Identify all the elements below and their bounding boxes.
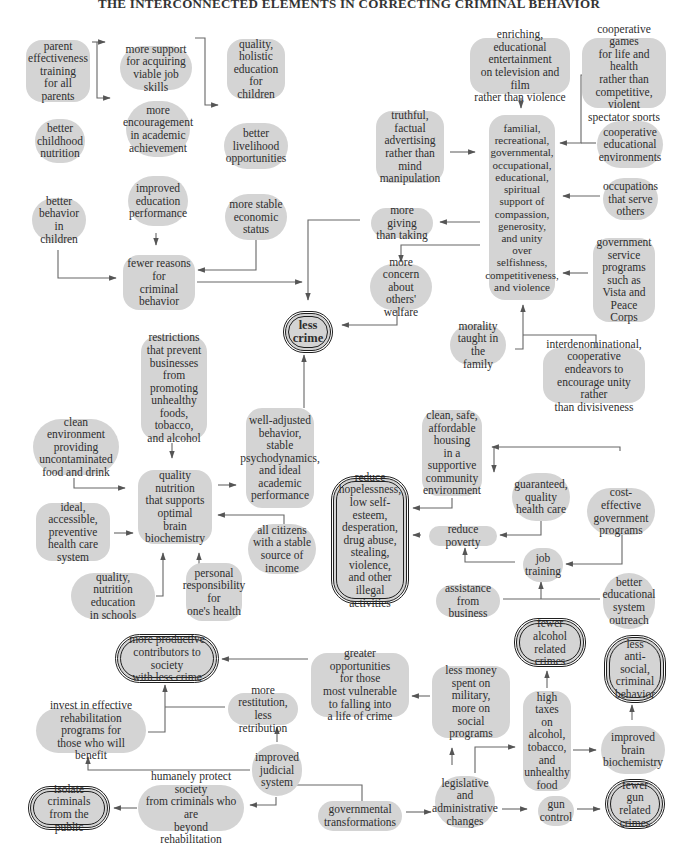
- node-stable-economic: more stable economic status: [225, 194, 287, 240]
- node-fewer-gun-crimes: fewer gun related crimes: [607, 781, 663, 827]
- node-personal-responsibility: personal responsibility for one's health: [186, 563, 242, 621]
- node-education-performance: improved education performance: [128, 176, 188, 226]
- node-restrictions-businesses: restrictions that prevent businesses fro…: [141, 336, 207, 440]
- node-nutrition-education: quality, nutrition education in schools: [71, 573, 155, 619]
- node-legislative-changes: legislative and administrative changes: [435, 776, 495, 828]
- node-job-skills: more support for acquiring viable job sk…: [120, 46, 192, 90]
- node-academic-encouragement: more encouragement in academic achieveme…: [126, 101, 190, 157]
- node-enriching-entertainment: enriching, educational entertainment on …: [470, 38, 570, 94]
- node-occupations-serve: occupations that serve others: [603, 178, 658, 220]
- node-cost-effective: cost-effective government programs: [587, 488, 655, 535]
- node-governmental-transformations: governmental transformations: [318, 801, 402, 831]
- node-productive-contributors: more productive contributors to society …: [117, 636, 217, 681]
- node-stable-income: all citizens with a stable source of inc…: [248, 524, 316, 574]
- node-fewer-reasons: fewer reasons for criminal behavior: [123, 255, 195, 310]
- node-clean-environment: clean environment providing uncontaminat…: [33, 419, 119, 475]
- node-protect-society: humanely protect society from criminals …: [138, 785, 244, 831]
- node-high-taxes: high taxes on alcohol, tobacco, and unhe…: [523, 691, 571, 791]
- node-less-antisocial: less anti-social, criminal behavior: [606, 637, 664, 701]
- node-reduce-poverty: reduce poverty: [429, 526, 497, 546]
- node-interdenominational: interdenominational, cooperative endeavo…: [543, 348, 645, 403]
- node-more-giving: more giving than taking: [371, 208, 433, 238]
- node-cooperative-games: cooperative games for life and health ra…: [582, 38, 666, 108]
- node-health-care-system: ideal, accessible, preventive health car…: [36, 503, 110, 561]
- node-parent-training: parent effectiveness training for all pa…: [26, 40, 90, 102]
- node-reduce-hopelessness: reduce hopelessness, low self-esteem, de…: [333, 478, 407, 602]
- node-less-crime: less crime: [285, 313, 331, 351]
- node-well-adjusted: well-adjusted behavior, stable psychodyn…: [246, 408, 314, 508]
- node-government-service: government service programs such as Vist…: [593, 238, 655, 322]
- node-job-training: job training: [523, 548, 563, 582]
- node-behavior-children: better behavior in children: [32, 198, 86, 242]
- node-housing: clean, safe, affordable housing in a sup…: [422, 410, 482, 496]
- node-guaranteed-health: guaranteed, quality health care: [512, 473, 570, 521]
- node-judicial-system: improved judicial system: [252, 744, 302, 796]
- node-more-concern: more concern about others' welfare: [370, 264, 432, 310]
- node-assistance-business: assistance from business: [436, 585, 500, 617]
- node-gun-control: gun control: [538, 796, 574, 826]
- node-familial-support: familial, recreational, governmental, oc…: [489, 115, 555, 300]
- node-educational-outreach: better educational system outreach: [603, 573, 655, 629]
- node-fewer-alcohol-crimes: fewer alcohol related crimes: [516, 620, 584, 665]
- node-holistic-education: quality, holistic education for children: [227, 39, 285, 99]
- node-restitution: more restitution, less retribution: [228, 693, 298, 725]
- node-cooperative-environments: cooperative educational environments: [597, 121, 663, 168]
- node-quality-nutrition: quality nutrition that supports optimal …: [138, 470, 212, 544]
- node-isolate-criminals: isolate criminals from the public: [30, 788, 108, 828]
- node-improved-brain: improved brain biochemistry: [601, 726, 665, 774]
- node-morality-family: morality taught in the family: [450, 325, 506, 365]
- node-rehabilitation: invest in effective rehabilitation progr…: [36, 708, 146, 753]
- node-greater-opportunities: greater opportunities for those most vul…: [311, 653, 409, 717]
- node-less-money-military: less money spent on military, more on so…: [432, 666, 510, 738]
- node-childhood-nutrition: better childhood nutrition: [35, 119, 85, 163]
- node-livelihood: better livelihood opportunities: [224, 123, 288, 169]
- node-truthful-advertising: truthful, factual advertising rather tha…: [376, 111, 444, 183]
